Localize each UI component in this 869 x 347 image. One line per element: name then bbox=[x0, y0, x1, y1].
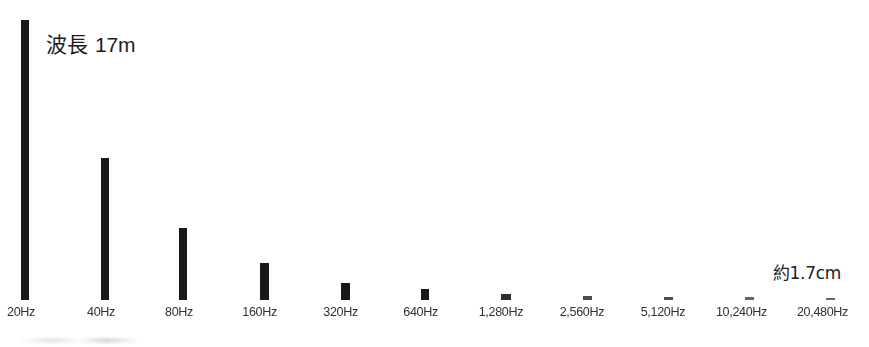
x-axis-tick-label: 320Hz bbox=[323, 303, 358, 321]
bar bbox=[501, 294, 511, 300]
bar bbox=[179, 228, 187, 300]
x-axis-tick-label: 2,560Hz bbox=[560, 303, 604, 321]
bar bbox=[21, 20, 29, 300]
x-axis-tick-label: 160Hz bbox=[242, 303, 277, 321]
x-axis-tick-label: 20Hz bbox=[7, 303, 35, 321]
min-wavelength-annotation: 約1.7cm bbox=[773, 262, 841, 284]
x-axis-label-row: 20Hz40Hz80Hz160Hz320Hz640Hz1,280Hz2,560H… bbox=[0, 303, 869, 325]
x-axis-tick-label: 40Hz bbox=[87, 303, 115, 321]
bar bbox=[664, 297, 673, 300]
max-wavelength-annotation: 波長17m bbox=[46, 31, 135, 59]
bar bbox=[260, 263, 269, 300]
bar bbox=[341, 283, 350, 300]
wavelength-frequency-chart: 20Hz40Hz80Hz160Hz320Hz640Hz1,280Hz2,560H… bbox=[0, 0, 869, 347]
x-axis-tick-label: 5,120Hz bbox=[641, 303, 685, 321]
bar bbox=[826, 298, 835, 300]
x-axis-tick-label: 1,280Hz bbox=[479, 303, 523, 321]
scan-artifact bbox=[18, 338, 138, 343]
bar bbox=[583, 296, 592, 300]
x-axis-tick-label: 20,480Hz bbox=[797, 303, 848, 321]
x-axis-tick-label: 10,240Hz bbox=[716, 303, 767, 321]
bar bbox=[745, 297, 754, 300]
bar bbox=[421, 289, 429, 300]
x-axis-tick-label: 80Hz bbox=[165, 303, 193, 321]
max-wavelength-annotation-value: 17m bbox=[95, 33, 135, 56]
max-wavelength-annotation-label: 波長 bbox=[46, 33, 88, 57]
bar bbox=[101, 158, 109, 300]
x-axis-tick-label: 640Hz bbox=[403, 303, 438, 321]
